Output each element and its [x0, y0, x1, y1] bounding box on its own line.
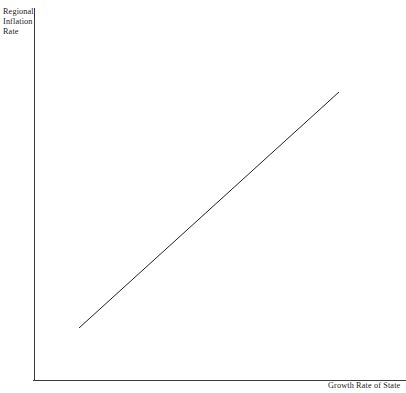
y-axis-label: Regional Inflation Rate — [3, 7, 34, 38]
plot-area — [0, 0, 406, 393]
figure-canvas: Regional Inflation Rate Growth Rate of S… — [0, 0, 406, 393]
x-axis-label: Growth Rate of State — [328, 381, 400, 391]
trend-line — [79, 92, 339, 328]
